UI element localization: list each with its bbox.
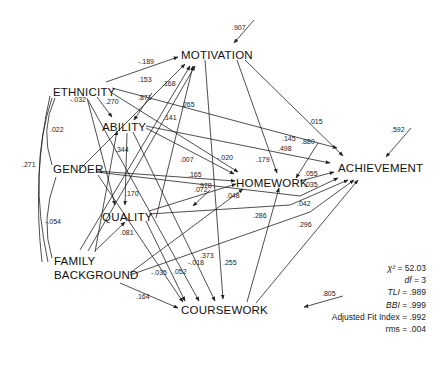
coef-fam-qual: .081 xyxy=(120,229,134,236)
coef-cw-ach: .296 xyxy=(298,221,312,228)
coef-eth-hw: -.020 xyxy=(217,154,233,161)
disturbance-ability: .871 xyxy=(138,94,152,101)
coef-qual-ach: .042 xyxy=(297,200,311,207)
corr-gender-family: -.054 xyxy=(45,218,61,225)
coef-mot-hw: .179 xyxy=(256,156,270,163)
node-motivation: MOTIVATION xyxy=(181,49,253,61)
coef-qual-cw: .052 xyxy=(173,268,187,275)
coef-mot-cw: .255 xyxy=(223,259,237,266)
coef-abil-cw: .373 xyxy=(200,252,214,259)
node-gender: GENDER xyxy=(53,163,103,175)
node-homework: HOMEWORK xyxy=(236,177,308,189)
disturbance-labels: .907 .592 .880 .978 .871 .805 xyxy=(138,24,405,297)
fit-indices: χ² = 52.03 df = 3 TLI = .989 BBI = .999 … xyxy=(332,262,426,335)
fit-df: df = 3 xyxy=(332,274,426,286)
coef-gen-ach: .035 xyxy=(304,181,318,188)
coef-eth-mot: -.189 xyxy=(138,58,154,65)
corr-ethnicity-family: .271 xyxy=(22,161,36,168)
node-family: FAMILY xyxy=(54,255,95,267)
coef-fam-mot: .153 xyxy=(138,76,152,83)
paths-to-achievement xyxy=(96,60,358,303)
fit-adjusted: Adjusted Fit Index = .992 xyxy=(332,311,426,323)
node-ability: ABILITY xyxy=(102,121,146,133)
coef-qual-mot: .141 xyxy=(163,114,177,121)
coef-fam-cw2: -.035 xyxy=(151,269,167,276)
coef-eth-ach: .145 xyxy=(282,135,296,142)
correlation-labels: .022 .271 -.054 xyxy=(22,126,64,225)
corr-ethnicity-gender: .022 xyxy=(50,126,64,133)
node-coursework: COURSEWORK xyxy=(181,304,268,316)
coef-abil-hw: .007 xyxy=(180,156,194,163)
disturbance-motivation: .907 xyxy=(232,24,246,31)
coef-eth-qual: -.032 xyxy=(70,96,86,103)
coef-fam-hw: .048 xyxy=(226,192,240,199)
fit-bbi: BBI = .999 xyxy=(332,299,426,311)
coef-abil-qual: .170 xyxy=(125,190,139,197)
coef-fam-cw: .164 xyxy=(136,293,150,300)
node-background: BACKGROUND xyxy=(54,269,138,281)
coef-gen-mot: .168 xyxy=(162,80,176,87)
node-quality: QUALITY xyxy=(102,211,153,223)
coef-eth-abil: .270 xyxy=(105,98,119,105)
coef-abil-ach: .498 xyxy=(278,145,292,152)
coef-gen-hw: .165 xyxy=(188,171,202,178)
correlation-arcs xyxy=(38,96,56,262)
coef-abil-mot: .265 xyxy=(181,101,195,108)
fit-rms: rms = .004 xyxy=(332,323,426,335)
disturbance-achievement: .592 xyxy=(391,126,405,133)
arc-ethnicity-family xyxy=(39,98,52,262)
disturbance-homework: .880 xyxy=(301,138,315,145)
fit-tli: TLI = .989 xyxy=(332,286,426,298)
coef-cw-hw: .286 xyxy=(253,212,267,219)
coef-hw-ach: .055 xyxy=(304,170,318,177)
fit-chi-square: χ² = 52.03 xyxy=(332,262,426,274)
coef-eth-cw: -.018 xyxy=(188,259,204,266)
coef-qual-hw: .072 xyxy=(194,186,208,193)
coef-mot-ach: .015 xyxy=(309,118,323,125)
coef-fam-abil: .344 xyxy=(115,146,129,153)
node-achievement: ACHIEVEMENT xyxy=(338,162,423,174)
